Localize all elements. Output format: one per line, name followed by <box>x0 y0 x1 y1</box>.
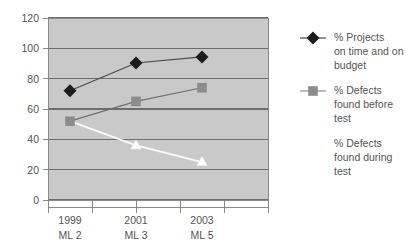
legend-item-defects-before-test[interactable]: % Defects found before test <box>300 84 393 124</box>
y-axis-ticks <box>43 18 48 200</box>
legend-marker-triangle-icon <box>308 139 318 148</box>
data-point-marker-square <box>197 83 207 93</box>
legend-label-line: test <box>334 112 351 124</box>
y-tick-label: 80 <box>27 73 39 85</box>
legend-label-line: % Defects <box>334 137 382 149</box>
data-point-marker-square <box>131 97 141 107</box>
legend-label-line: on time and on <box>334 45 404 57</box>
line-chart: 120 100 80 60 40 20 0 1999 ML 2 2001 ML … <box>0 0 418 248</box>
x-tick-label-level: ML 2 <box>59 229 82 241</box>
y-tick-label: 100 <box>21 42 39 54</box>
x-axis-labels: 1999 ML 2 2001 ML 3 2003 ML 5 <box>58 214 214 241</box>
y-tick-label: 20 <box>27 164 39 176</box>
chart-container: 120 100 80 60 40 20 0 1999 ML 2 2001 ML … <box>0 0 418 248</box>
legend-marker-square-icon <box>308 86 318 96</box>
x-tick-label-level: ML 3 <box>125 229 148 241</box>
x-tick-label-level: ML 5 <box>191 229 214 241</box>
x-tick-label-year: 2003 <box>190 214 214 226</box>
legend-label-line: test <box>334 165 351 177</box>
legend-label-line: budget <box>334 59 366 71</box>
chart-legend: % Projects on time and on budget % Defec… <box>300 31 404 177</box>
legend-item-defects-during-test[interactable]: % Defects found during test <box>300 137 393 177</box>
legend-label-line: found before <box>334 98 393 110</box>
legend-label-line: found during <box>334 151 393 163</box>
data-point-marker-square <box>65 116 75 126</box>
y-axis-labels: 120 100 80 60 40 20 0 <box>21 12 39 206</box>
legend-label-line: % Projects <box>334 31 384 43</box>
y-tick-label: 60 <box>27 103 39 115</box>
legend-label-line: % Defects <box>334 84 382 96</box>
y-tick-label: 0 <box>33 194 39 206</box>
legend-item-projects-on-time[interactable]: % Projects on time and on budget <box>300 31 404 71</box>
legend-marker-diamond-icon <box>307 32 320 45</box>
x-tick-label-year: 2001 <box>124 214 148 226</box>
y-tick-label: 40 <box>27 133 39 145</box>
y-tick-label: 120 <box>21 12 39 24</box>
x-tick-label-year: 1999 <box>58 214 82 226</box>
